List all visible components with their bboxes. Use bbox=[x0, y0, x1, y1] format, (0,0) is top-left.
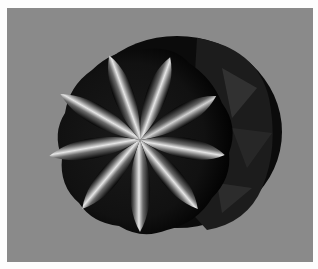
render-background bbox=[7, 8, 313, 262]
image-frame bbox=[0, 0, 318, 269]
rosette-surface bbox=[7, 8, 313, 262]
